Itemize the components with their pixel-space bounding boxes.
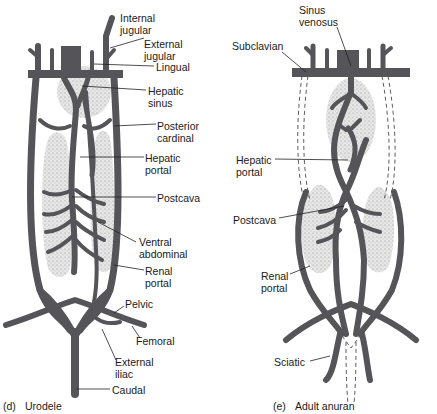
label-subclavian: Subclavian bbox=[232, 40, 283, 52]
venous-system-diagram bbox=[0, 0, 437, 414]
label-caudal: Caudal bbox=[112, 384, 145, 396]
caption-urodele: Urodele bbox=[25, 400, 62, 412]
label-hepatic-sinus: Hepatic sinus bbox=[148, 85, 184, 109]
caption-adult-anuran: Adult anuran bbox=[295, 400, 355, 412]
caption-letter-d: (d) bbox=[3, 400, 16, 412]
label-sinus-venosus: Sinus venosus bbox=[299, 4, 338, 28]
label-hepatic-portal-urodele: Hepatic portal bbox=[145, 152, 181, 176]
caption-letter-e: (e) bbox=[273, 400, 286, 412]
label-renal-portal-anuran: Renal portal bbox=[261, 270, 288, 294]
label-external-iliac: External iliac bbox=[115, 356, 154, 380]
label-postcava-urodele: Postcava bbox=[157, 192, 200, 204]
label-femoral: Femoral bbox=[136, 335, 175, 347]
urodele-vessels bbox=[4, 18, 146, 394]
label-postcava-anuran: Postcava bbox=[233, 214, 276, 226]
label-renal-portal-urodele: Renal portal bbox=[145, 265, 172, 289]
label-lingual: Lingual bbox=[156, 61, 190, 73]
label-internal-jugular: Internal jugular bbox=[120, 12, 155, 36]
label-external-jugular: External jugular bbox=[144, 38, 183, 62]
urodele-diagram bbox=[4, 18, 156, 394]
anuran-diagram bbox=[275, 27, 416, 404]
label-sciatic: Sciatic bbox=[274, 356, 305, 368]
label-pelvic: Pelvic bbox=[125, 298, 153, 310]
label-posterior-cardinal: Posterior cardinal bbox=[157, 120, 199, 144]
label-hepatic-portal-anuran: Hepatic portal bbox=[236, 154, 272, 178]
label-ventral-abdominal: Ventral abdominal bbox=[139, 236, 187, 260]
